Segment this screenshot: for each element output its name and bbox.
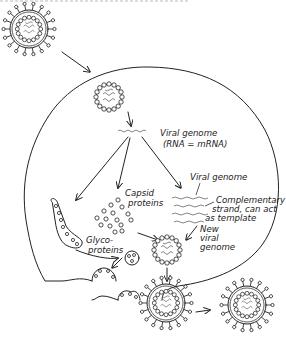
cell-membrane xyxy=(24,67,278,300)
label-viral-genome: Viral genome xyxy=(160,128,217,138)
capsid-assembly-arrow xyxy=(138,233,158,240)
label-capsid: Capsid xyxy=(125,188,155,198)
viral-replication-diagram: Viral genome (RNA = mRNA) Capsid protein… xyxy=(0,0,286,343)
label-capsid-proteins: proteins xyxy=(127,198,164,208)
membrane-glycoprotein-patches xyxy=(92,268,140,300)
label-viral-genome-2: Viral genome xyxy=(190,172,247,182)
er-glycoproteins xyxy=(54,204,78,245)
internalized-nucleocapsid xyxy=(94,82,124,112)
released-virion xyxy=(220,278,274,332)
assembled-nucleocapsid xyxy=(152,235,182,265)
label-rna-mrna: (RNA = mRNA) xyxy=(163,139,227,149)
glycoprotein-vesicle xyxy=(125,251,139,265)
viral-genome-squiggle xyxy=(118,130,146,132)
arrow-to-capsid xyxy=(118,138,130,188)
release-arrow xyxy=(196,310,210,312)
extracellular-virion xyxy=(2,2,56,56)
arrow-to-er xyxy=(76,137,128,200)
vesicle-to-membrane-arrow xyxy=(112,258,122,268)
uncoating-arrow xyxy=(128,112,131,126)
label-glyco-proteins: proteins xyxy=(87,245,124,255)
entry-arrow xyxy=(62,52,90,72)
label-glyco: Glyco- xyxy=(86,235,113,245)
new-genome-arrow xyxy=(186,226,197,240)
replication-strands xyxy=(172,197,208,223)
budding-virion xyxy=(139,276,193,330)
label-genome: genome xyxy=(200,242,235,252)
label-as-template-text: as template xyxy=(205,213,256,223)
pointer-viral-genome-2 xyxy=(196,183,200,195)
